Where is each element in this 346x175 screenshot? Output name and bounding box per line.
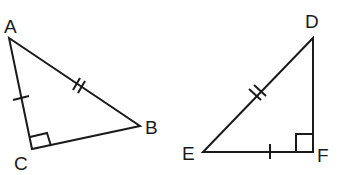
tick-mark-ab-2 <box>78 81 85 93</box>
right-angle-mark-f <box>296 134 313 152</box>
vertex-label-f: F <box>317 146 329 165</box>
vertex-label-c: C <box>14 154 28 173</box>
triangle-abc <box>9 38 140 149</box>
vertex-label-b: B <box>145 118 158 137</box>
right-angle-mark-c <box>30 133 51 146</box>
vertex-label-a: A <box>4 17 17 36</box>
vertex-label-e: E <box>182 144 195 163</box>
geometry-diagram <box>0 0 346 175</box>
vertex-label-d: D <box>305 12 319 31</box>
